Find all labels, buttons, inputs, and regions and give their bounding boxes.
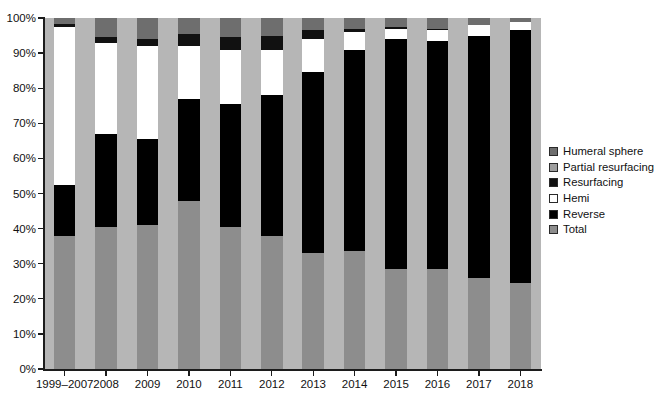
stacked-bar[interactable] (220, 18, 242, 369)
stacked-bar[interactable] (468, 18, 490, 369)
bar-segment[interactable] (261, 50, 283, 96)
bar-segment[interactable] (261, 36, 283, 50)
bar-segment[interactable] (468, 25, 490, 36)
bar-segment[interactable] (95, 43, 117, 134)
bar-segment[interactable] (468, 36, 490, 278)
stacked-bar[interactable] (385, 18, 407, 369)
y-axis-tick-label: 10% (0, 328, 36, 340)
legend-item[interactable]: Total (549, 222, 654, 238)
y-axis-tick-label: 90% (0, 47, 36, 59)
bar-segment[interactable] (344, 32, 366, 50)
bar-segment[interactable] (54, 236, 76, 369)
bar-segment[interactable] (137, 18, 159, 39)
y-axis-tick-label: 70% (0, 117, 36, 129)
y-axis-tick-label: 20% (0, 293, 36, 305)
y-axis-tick-label: 80% (0, 82, 36, 94)
bar-segment[interactable] (468, 278, 490, 369)
bar-slot (44, 18, 85, 369)
bar-segment[interactable] (220, 37, 242, 49)
bar-segment[interactable] (427, 41, 449, 269)
bar-segment[interactable] (220, 18, 242, 37)
bar-segment[interactable] (54, 185, 76, 236)
bar-segment[interactable] (54, 27, 76, 185)
stacked-bar[interactable] (54, 18, 76, 369)
bar-segment[interactable] (510, 30, 532, 283)
legend-item-label: Hemi (563, 193, 589, 204)
y-axis-tick-label: 100% (0, 12, 36, 24)
stacked-bar[interactable] (344, 18, 366, 369)
bar-segment[interactable] (178, 46, 200, 99)
bar-segment[interactable] (385, 18, 407, 27)
bar-segment[interactable] (510, 283, 532, 369)
bar-slot (293, 18, 334, 369)
bar-segment[interactable] (261, 236, 283, 369)
bar-segment[interactable] (302, 72, 324, 253)
x-axis-tick-label: 2018 (507, 378, 533, 390)
bar-slot (458, 18, 499, 369)
stacked-bar[interactable] (510, 18, 532, 369)
bar-segment[interactable] (220, 50, 242, 104)
x-axis-tick (188, 370, 189, 376)
bar-segment[interactable] (178, 99, 200, 201)
bar-segment[interactable] (302, 18, 324, 30)
legend-item[interactable]: Resurfacing (549, 175, 654, 191)
y-axis-tick-label: 30% (0, 258, 36, 270)
stacked-bar[interactable] (302, 18, 324, 369)
bar-segment[interactable] (385, 269, 407, 369)
legend-item[interactable]: Partial resurfacing (549, 160, 654, 176)
bar-segment[interactable] (302, 253, 324, 369)
legend-swatch-icon (549, 225, 558, 234)
bar-segment[interactable] (427, 30, 449, 41)
bar-segment[interactable] (427, 269, 449, 369)
stacked-bar[interactable] (95, 18, 117, 369)
bar-slot (334, 18, 375, 369)
bar-slot (375, 18, 416, 369)
bar-segment[interactable] (220, 104, 242, 227)
bar-segment[interactable] (95, 227, 117, 369)
bar-segment[interactable] (178, 34, 200, 46)
bar-segment[interactable] (302, 30, 324, 39)
legend-item[interactable]: Reverse (549, 206, 654, 222)
bar-segment[interactable] (137, 225, 159, 369)
bar-segment[interactable] (302, 39, 324, 72)
y-axis-tick-label: 50% (0, 188, 36, 200)
x-axis-tick-label: 2012 (259, 378, 285, 390)
bar-segment[interactable] (344, 251, 366, 369)
bar-segment[interactable] (427, 18, 449, 29)
bar-segment[interactable] (385, 29, 407, 40)
bar-segment[interactable] (510, 22, 532, 31)
bar-slot (251, 18, 292, 369)
x-axis-tick-label: 2011 (218, 378, 243, 390)
x-axis-tick-label: 2017 (466, 378, 492, 390)
legend-swatch-icon (549, 147, 558, 156)
legend-item[interactable]: Humeral sphere (549, 144, 654, 160)
bar-segment[interactable] (137, 39, 159, 46)
bar-segment[interactable] (261, 18, 283, 36)
bar-segment[interactable] (178, 201, 200, 369)
x-axis-tick-label: 2008 (93, 378, 119, 390)
y-axis-tick-label: 40% (0, 223, 36, 235)
bar-segment[interactable] (137, 46, 159, 139)
legend-item[interactable]: Hemi (549, 191, 654, 207)
chart-legend: Humeral spherePartial resurfacingResurfa… (549, 144, 654, 238)
x-axis-tick-label: 2014 (342, 378, 368, 390)
stacked-bar[interactable] (427, 18, 449, 369)
x-axis-tick (230, 370, 231, 376)
stacked-bar[interactable] (137, 18, 159, 369)
stacked-bar[interactable] (261, 18, 283, 369)
x-axis-tick-label: 2015 (383, 378, 409, 390)
bar-slot (210, 18, 251, 369)
x-axis-tick-label: 2013 (300, 378, 326, 390)
bar-segment[interactable] (95, 134, 117, 227)
bar-segment[interactable] (344, 18, 366, 29)
bar-segment[interactable] (468, 18, 490, 25)
bar-segment[interactable] (261, 95, 283, 235)
bar-segment[interactable] (95, 18, 117, 37)
bar-segment[interactable] (385, 39, 407, 269)
bar-segment[interactable] (344, 50, 366, 252)
bar-segment[interactable] (178, 18, 200, 34)
bar-segment[interactable] (220, 227, 242, 369)
stacked-bar[interactable] (178, 18, 200, 369)
bars-layer (44, 18, 541, 369)
bar-segment[interactable] (137, 139, 159, 225)
